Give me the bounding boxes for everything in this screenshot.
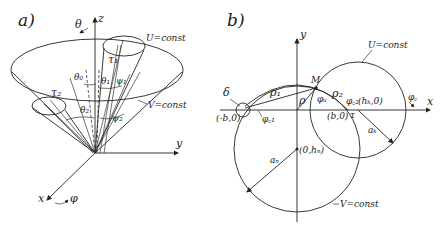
b-y-axis-label: y: [299, 28, 307, 41]
v-const-leader: [138, 100, 147, 104]
theta0-label: θ₀: [74, 72, 83, 82]
delta-leader: [230, 99, 240, 106]
diagram-canvas: a) z y x φ θ V=const U=const τ₁ θ₁ ψ₁: [0, 0, 447, 228]
rho-label: ρ: [298, 94, 306, 107]
x-axis-label: x: [38, 192, 45, 205]
panel-b: b) y x V=const U=const δ (-b,0) M ρ₁ ρ ρ…: [216, 10, 434, 222]
theta-label: θ: [75, 18, 82, 31]
u-const-label: U=const: [146, 33, 186, 43]
a-k-label: aₖ: [368, 125, 377, 135]
zero-hn-label: (0,hₙ): [299, 145, 325, 155]
panel-b-label: b): [227, 10, 245, 30]
tau-label: τ: [350, 110, 356, 120]
theta1-arc: [99, 86, 122, 89]
b0-label: (b,0): [327, 111, 349, 121]
small-cone2-edge-right: [65, 110, 95, 153]
phi-c-arrow: [409, 102, 414, 107]
theta1-label: θ₁: [101, 76, 110, 86]
phi-label: φ: [70, 192, 78, 205]
panel-a-label: a): [18, 10, 35, 30]
phi-u-label: φᵤ: [317, 94, 327, 104]
phi-rotation-arrow: [55, 200, 68, 204]
b-u-const-label: U=const: [368, 40, 408, 50]
theta0-arc: [84, 84, 96, 85]
hk0-label: (hₖ,0): [358, 96, 383, 106]
point-m-label: M: [310, 75, 321, 85]
y-axis-label: y: [175, 137, 183, 150]
rho1-label: ρ₁: [269, 86, 281, 99]
minus-b0-label: (-b,0): [216, 113, 241, 123]
theta2-label: θ₂: [80, 105, 89, 115]
v-const-cone-top: [11, 39, 183, 101]
tau2-label: τ₂: [51, 86, 62, 99]
panel-a: a) z y x φ θ V=const U=const τ₁ θ₁ ψ₁: [11, 10, 187, 205]
rho2-label: ρ₂: [331, 87, 343, 100]
z-axis-label: z: [97, 12, 104, 25]
phi-c-label: φ꜀: [408, 92, 418, 102]
tau1-label: τ₁: [108, 53, 119, 66]
v-const-label: V=const: [148, 100, 187, 110]
phi-c1-label: φ꜀₁: [262, 114, 275, 124]
a-n-label: aₙ: [270, 155, 279, 165]
b-v-const-label: V=const: [340, 199, 379, 209]
b-u-const-leader: [362, 50, 372, 62]
delta-label: δ: [223, 86, 230, 99]
b-x-axis-label: x: [427, 95, 434, 108]
